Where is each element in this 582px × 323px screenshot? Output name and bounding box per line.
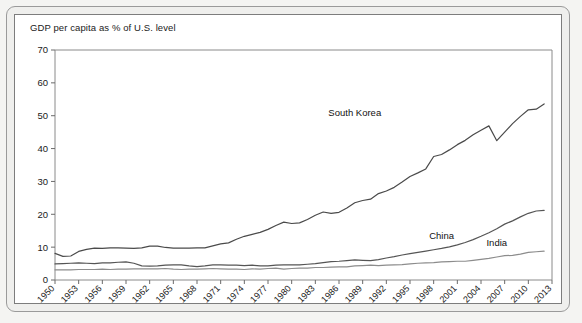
x-tick-label: 1986	[319, 283, 340, 304]
x-tick-label: 2010	[509, 283, 530, 304]
series-line-south-korea	[55, 104, 544, 256]
figure-root: GDP per capita as % of U.S. level 010203…	[0, 0, 582, 323]
line-chart-plot: 0102030405060701950195319561959196219651…	[14, 14, 562, 304]
series-label-china: China	[429, 230, 455, 241]
x-tick-label: 1977	[248, 283, 269, 304]
x-tick-label: 1974	[225, 283, 246, 304]
y-tick-label: 60	[37, 77, 48, 88]
series-label-south-korea: South Korea	[328, 107, 382, 118]
y-tick-label: 40	[37, 143, 48, 154]
x-tick-label: 1980	[272, 283, 293, 304]
x-tick-label: 1968	[177, 283, 198, 304]
x-tick-label: 1983	[296, 283, 317, 304]
y-tick-label: 0	[43, 274, 48, 285]
x-tick-label: 1965	[154, 283, 175, 304]
x-tick-label: 1959	[106, 283, 127, 304]
x-tick-label: 1950	[35, 283, 56, 304]
x-tick-label: 1989	[343, 283, 364, 304]
x-tick-label: 1992	[367, 283, 388, 304]
x-tick-label: 1971	[201, 283, 222, 304]
x-tick-label: 2013	[532, 283, 553, 304]
series-line-china	[55, 210, 544, 266]
x-tick-label: 1962	[130, 283, 151, 304]
x-tick-label: 2007	[485, 283, 506, 304]
series-label-india: India	[486, 237, 507, 248]
y-tick-label: 50	[37, 110, 48, 121]
x-tick-label: 1953	[59, 283, 80, 304]
series-line-india	[55, 251, 544, 270]
x-tick-label: 1995	[390, 283, 411, 304]
y-tick-label: 70	[37, 44, 48, 55]
x-tick-label: 1956	[83, 283, 104, 304]
x-tick-label: 1998	[414, 283, 435, 304]
x-tick-label: 2004	[461, 283, 482, 304]
x-tick-label: 2001	[438, 283, 459, 304]
y-tick-label: 20	[37, 209, 48, 220]
y-tick-label: 10	[37, 242, 48, 253]
y-tick-label: 30	[37, 176, 48, 187]
